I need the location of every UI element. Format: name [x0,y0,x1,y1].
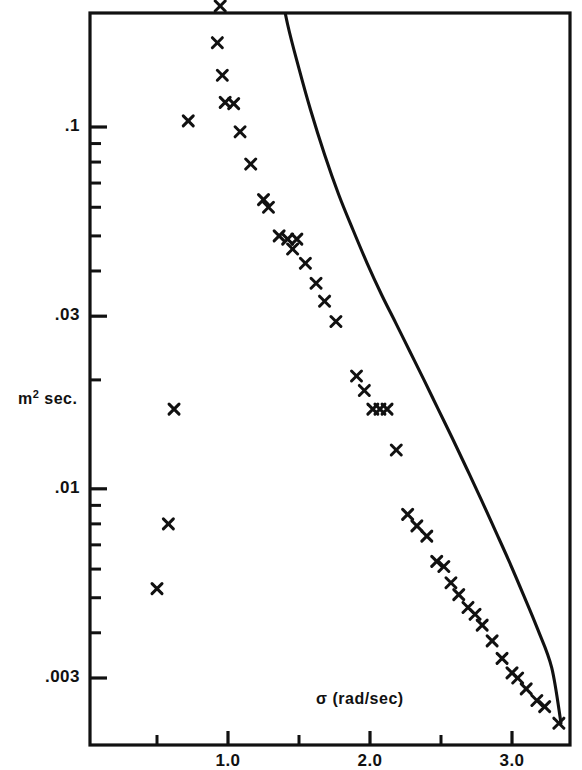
y-tick-label-point003: .003 [0,667,80,687]
x-tick-label-2: 2.0 [330,751,410,770]
scatter-plot-canvas [0,0,582,770]
data-point-marker [477,620,487,630]
data-point-marker [521,684,531,694]
data-point-marker [352,371,362,381]
data-point-marker [292,234,302,244]
data-point-marker [487,636,497,646]
data-point-marker [163,519,173,529]
x-axis-title: σ (rad/sec) [316,690,404,708]
y-tick-label-point01: .01 [0,478,80,498]
data-point-markers [152,0,564,728]
data-point-marker [446,578,456,588]
data-point-marker [183,116,193,126]
data-point-marker [382,404,392,414]
data-point-marker [311,278,321,288]
data-point-marker [229,99,239,109]
y-axis-minor-ticks [90,144,101,633]
data-point-marker [212,38,222,48]
data-point-marker [215,1,225,11]
data-point-marker [513,673,523,683]
theoretical-curve [277,0,561,723]
data-point-marker [412,521,422,531]
y-tick-label-point03: .03 [0,305,80,325]
data-point-marker [246,159,256,169]
x-tick-label-3: 3.0 [472,751,552,770]
data-point-marker [497,653,507,663]
data-point-marker [217,70,227,80]
y-tick-label-point1: .1 [0,116,80,136]
x-tick-label-1: 1.0 [188,751,268,770]
y-axis-title-units: sec. [39,390,77,407]
y-axis-title: m2 sec. [18,390,77,408]
data-point-marker [169,404,179,414]
data-point-marker [391,445,401,455]
data-point-marker [422,531,432,541]
y-axis-title-main: m [18,390,33,407]
data-point-marker [403,509,413,519]
data-point-marker [359,385,369,395]
data-point-marker [470,609,480,619]
figure-container: .1 .03 .01 .003 1.0 2.0 3.0 m2 sec. σ (r… [0,0,582,770]
data-point-marker [300,258,310,268]
data-point-marker [320,296,330,306]
y-axis-major-ticks [90,127,107,678]
data-point-marker [235,127,245,137]
theory-curve-path [277,0,561,723]
data-point-marker [454,590,464,600]
data-point-marker [152,584,162,594]
data-point-marker [331,317,341,327]
x-axis-major-ticks [228,731,512,745]
